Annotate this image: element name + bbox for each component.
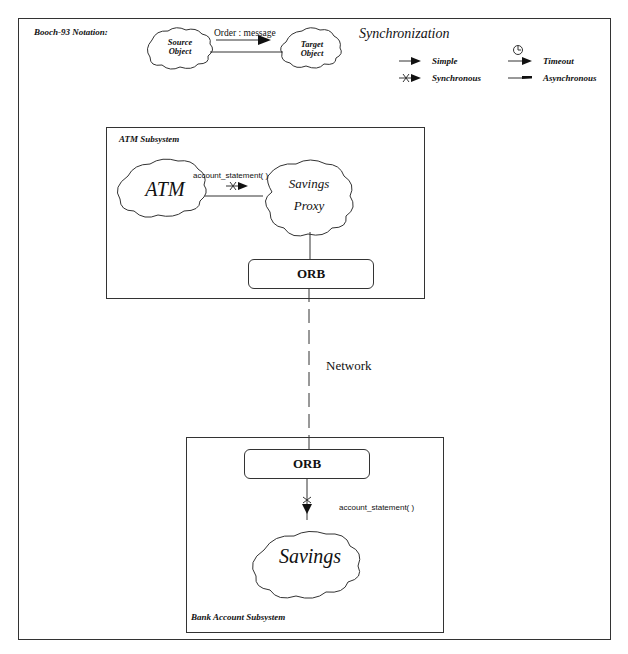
atm-message-label: account_statement( ) bbox=[193, 171, 268, 180]
savings-object-label: Savings bbox=[272, 545, 348, 568]
legend-synchronous-label: Synchronous bbox=[432, 73, 481, 83]
synchronization-title: Synchronization bbox=[359, 26, 449, 42]
notation-title: Booch-93 Notation: bbox=[34, 27, 108, 37]
atm-orb-box: ORB bbox=[248, 259, 374, 289]
legend-asynchronous-label: Asynchronous bbox=[543, 73, 597, 83]
notation-message-label: Order : message bbox=[214, 28, 276, 38]
source-object-label: Source Object bbox=[158, 38, 202, 56]
legend-simple-label: Simple bbox=[432, 56, 458, 66]
network-label: Network bbox=[326, 358, 372, 374]
bank-message-label: account_statement( ) bbox=[339, 503, 414, 512]
bank-orb-box: ORB bbox=[244, 449, 370, 479]
atm-object-label: ATM bbox=[135, 178, 195, 201]
target-object-label: Target Object bbox=[292, 40, 332, 58]
savings-proxy-label: Savings Proxy bbox=[272, 173, 346, 217]
legend-timeout-label: Timeout bbox=[543, 56, 574, 66]
bank-subsystem-title: Bank Account Subsystem bbox=[191, 612, 285, 622]
atm-subsystem-title: ATM Subsystem bbox=[119, 134, 179, 144]
